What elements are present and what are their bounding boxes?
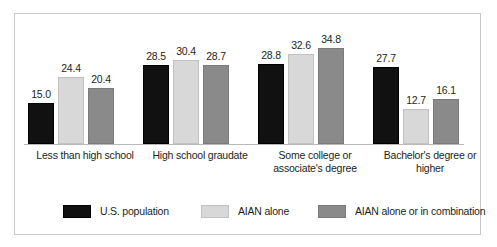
bar-chart-figure: 15.0 24.4 20.4 28.5 [0,0,497,247]
category-axis-labels: Less than high school High school grauda… [20,149,472,191]
bar-value-label: 24.4 [51,63,91,74]
bar-aian-combination [88,88,114,144]
bar-value-label: 16.1 [426,85,466,96]
bar-aian-alone [173,60,199,144]
category-label-some-college: Some college or associate's degree [250,149,380,175]
category-label-line: Some college or [250,149,380,162]
bar-slot: 20.4 [88,18,114,144]
plot-area: 15.0 24.4 20.4 28.5 [28,18,468,144]
legend-label: U.S. population [100,205,169,218]
legend-swatch-icon [63,205,91,218]
bar-slot: 28.7 [203,18,229,144]
chart-legend: U.S. population AIAN alone AIAN alone or… [20,203,475,223]
category-label-bachelors-degree: Bachelor's degree or higher [365,149,495,175]
bar-aian-alone [403,109,429,144]
bar-value-label: 34.8 [311,34,351,45]
bar-aian-alone [288,54,314,144]
category-label-line: High school graudate [135,149,265,162]
bar-slot: 28.5 [143,18,169,144]
category-label-line: associate's degree [250,162,380,175]
legend-item-aian-combination[interactable]: AIAN alone or in combination [318,203,485,219]
bar-value-label: 20.4 [81,74,121,85]
bar-value-label: 27.7 [366,53,406,64]
bar-aian-combination [318,48,344,144]
legend-label: AIAN alone [238,205,289,218]
bar-aian-combination [433,99,459,144]
bar-slot: 34.8 [318,18,344,144]
category-label-less-than-high-school: Less than high school [20,149,150,162]
bar-slot: 27.7 [373,18,399,144]
category-label-high-school-graudate: High school graudate [135,149,265,162]
bar-slot: 15.0 [28,18,54,144]
bar-us-population [258,64,284,144]
bar-slot: 16.1 [433,18,459,144]
bar-slot: 30.4 [173,18,199,144]
legend-swatch-icon [318,205,346,218]
bar-aian-alone [58,77,84,144]
legend-item-aian-alone[interactable]: AIAN alone [201,203,289,219]
bar-us-population [143,65,169,144]
category-label-line: Less than high school [20,149,150,162]
bar-slot: 12.7 [403,18,429,144]
bar-us-population [28,103,54,144]
legend-label: AIAN alone or in combination [355,205,485,218]
bar-value-label: 28.8 [251,50,291,61]
bar-slot: 28.8 [258,18,284,144]
axis-baseline [24,144,464,145]
bar-value-label: 28.7 [196,51,236,62]
bar-aian-combination [203,65,229,144]
category-label-line: higher [365,162,495,175]
bar-value-label: 12.7 [396,95,436,106]
bar-value-label: 15.0 [21,89,61,100]
legend-swatch-icon [201,205,229,218]
category-label-line: Bachelor's degree or [365,149,495,162]
legend-item-us-population[interactable]: U.S. population [63,203,169,219]
